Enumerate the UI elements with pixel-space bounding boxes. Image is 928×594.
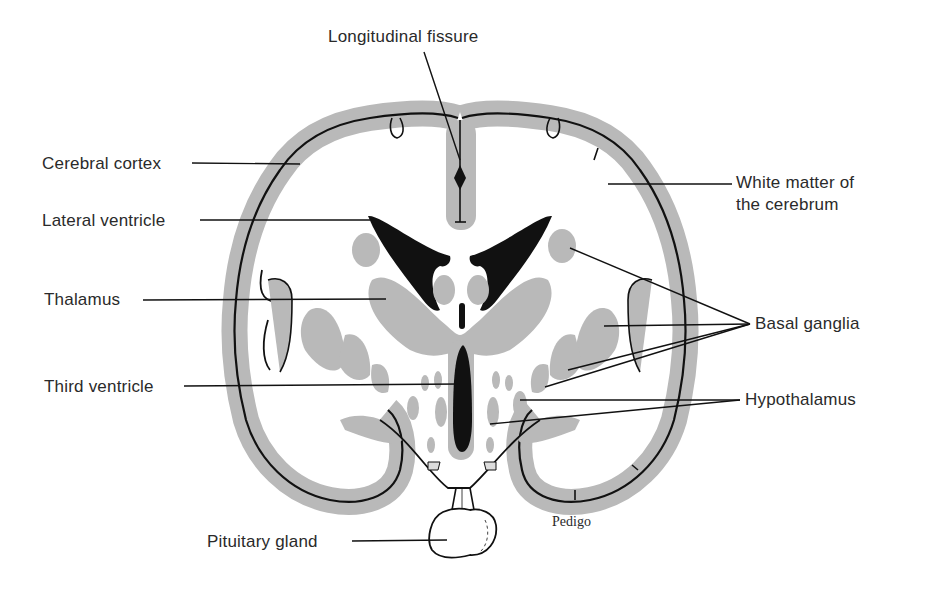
longitudinal-fissure-region [446,120,476,230]
label-cerebral-cortex: Cerebral cortex [42,153,161,175]
label-white-matter-line2: the cerebrum [736,194,839,216]
label-thalamus: Thalamus [44,289,120,311]
brain-coronal-diagram: Longitudinal fissure Cerebral cortex Lat… [0,0,928,594]
label-lateral-ventricle: Lateral ventricle [42,210,165,232]
label-basal-ganglia: Basal ganglia [755,313,860,335]
label-hypothalamus: Hypothalamus [745,389,856,411]
label-pituitary-gland: Pituitary gland [207,531,318,553]
label-third-ventricle: Third ventricle [44,376,154,398]
brain-illustration [0,0,928,594]
artist-credit: Pedigo [552,514,591,530]
label-longitudinal-fissure: Longitudinal fissure [328,26,478,48]
label-white-matter-line1: White matter of [736,172,854,194]
